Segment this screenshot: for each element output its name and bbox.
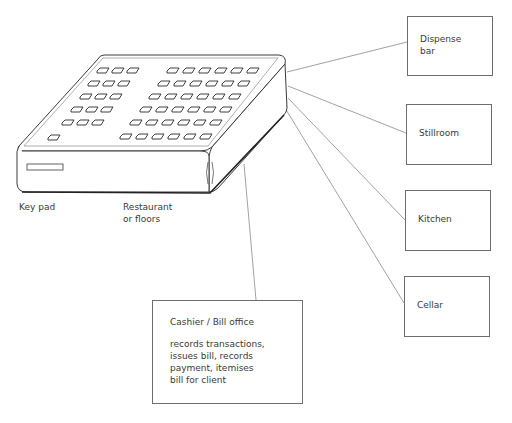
keypad-label: Key pad (19, 201, 55, 213)
cellar-label: Cellar (417, 299, 443, 311)
connector-dispense-bar (287, 42, 407, 72)
cashier-description: records transactions, issues bill, recor… (170, 338, 265, 386)
stillroom-label: Stillroom (419, 127, 459, 139)
cashier-box: Cashier / Bill office records transactio… (152, 300, 303, 404)
kitchen-box: Kitchen (405, 190, 491, 251)
cashier-title: Cashier / Bill office (170, 316, 265, 328)
connector-cashier (244, 164, 256, 300)
connector-cellar (285, 108, 404, 303)
cellar-box: Cellar (404, 276, 490, 337)
dispense-bar-label-line2: bar (420, 45, 461, 57)
connector-stillroom (288, 86, 406, 133)
connector-kitchen (288, 98, 405, 220)
stillroom-box: Stillroom (406, 104, 492, 165)
dispense-bar-box: Dispense bar (407, 16, 493, 76)
restaurant-label: Restaurant or floors (123, 201, 172, 225)
restaurant-label-line1: Restaurant (123, 201, 172, 213)
kitchen-label: Kitchen (418, 213, 452, 225)
display-slot (27, 164, 63, 170)
dispense-bar-label: Dispense bar (420, 33, 461, 57)
dispense-bar-label-line1: Dispense (420, 33, 461, 45)
cashier-content: Cashier / Bill office records transactio… (170, 316, 265, 386)
restaurant-label-line2: or floors (123, 213, 172, 225)
